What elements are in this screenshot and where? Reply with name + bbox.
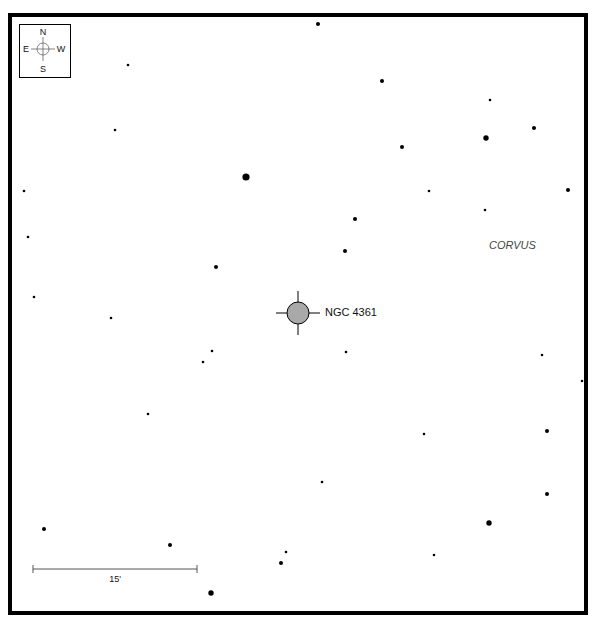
- star: [33, 296, 36, 299]
- finder-chart: N S E W NGC 4361 CORVUS 15': [0, 0, 596, 627]
- compass-west-label: W: [57, 44, 66, 54]
- star: [545, 492, 549, 496]
- star: [27, 236, 30, 239]
- star: [486, 520, 491, 525]
- star: [345, 351, 348, 354]
- star: [23, 190, 26, 193]
- star: [400, 145, 404, 149]
- star: [211, 350, 214, 353]
- star: [202, 361, 205, 364]
- star: [168, 543, 172, 547]
- compass-north-label: N: [40, 27, 47, 37]
- star: [483, 135, 488, 140]
- star: [114, 129, 117, 132]
- planetary-nebula-icon[interactable]: [287, 302, 309, 324]
- constellation-label: CORVUS: [489, 239, 537, 251]
- star: [110, 317, 113, 320]
- star: [316, 22, 320, 26]
- star: [541, 354, 544, 357]
- star: [214, 265, 218, 269]
- star: [484, 209, 487, 212]
- star: [566, 188, 570, 192]
- star: [42, 527, 46, 531]
- star: [489, 99, 492, 102]
- star: [343, 249, 347, 253]
- star: [242, 173, 249, 180]
- star: [433, 554, 436, 557]
- compass-east-label: E: [23, 44, 29, 54]
- star: [279, 561, 283, 565]
- star: [208, 590, 213, 595]
- star: [532, 126, 536, 130]
- compass-rose: N S E W: [20, 25, 71, 78]
- scale-bar-label: 15': [109, 574, 121, 584]
- star: [285, 551, 288, 554]
- star: [581, 380, 584, 383]
- object-label: NGC 4361: [325, 306, 377, 318]
- star: [423, 433, 426, 436]
- star: [127, 64, 130, 67]
- star: [353, 217, 357, 221]
- compass-south-label: S: [40, 64, 46, 74]
- star: [321, 481, 324, 484]
- star: [380, 79, 384, 83]
- star: [428, 190, 431, 193]
- star: [147, 413, 150, 416]
- star: [545, 429, 549, 433]
